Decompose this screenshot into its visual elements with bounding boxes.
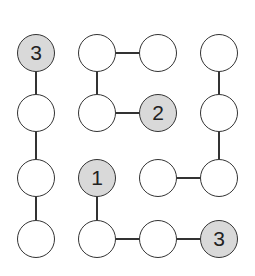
- empty-node[interactable]: [200, 159, 238, 197]
- connection-line: [177, 177, 200, 179]
- connection-line: [218, 72, 220, 94]
- connection-line: [116, 112, 139, 114]
- clue-node[interactable]: 3: [200, 220, 238, 258]
- connection-line: [35, 132, 37, 159]
- empty-node[interactable]: [78, 220, 116, 258]
- connection-line: [218, 132, 220, 159]
- empty-node[interactable]: [139, 220, 177, 258]
- connection-line: [177, 238, 200, 240]
- clue-node[interactable]: 2: [139, 94, 177, 132]
- clue-node[interactable]: 3: [17, 34, 55, 72]
- connection-line: [116, 238, 139, 240]
- connection-line: [96, 197, 98, 220]
- empty-node[interactable]: [139, 159, 177, 197]
- empty-node[interactable]: [78, 94, 116, 132]
- empty-node[interactable]: [78, 34, 116, 72]
- connection-line: [116, 52, 139, 54]
- empty-node[interactable]: [17, 94, 55, 132]
- connection-line: [35, 72, 37, 94]
- empty-node[interactable]: [200, 94, 238, 132]
- puzzle-board: 3213: [0, 0, 255, 276]
- empty-node[interactable]: [200, 34, 238, 72]
- empty-node[interactable]: [139, 34, 177, 72]
- empty-node[interactable]: [17, 220, 55, 258]
- connection-line: [35, 197, 37, 220]
- clue-node[interactable]: 1: [78, 159, 116, 197]
- connection-line: [96, 72, 98, 94]
- empty-node[interactable]: [17, 159, 55, 197]
